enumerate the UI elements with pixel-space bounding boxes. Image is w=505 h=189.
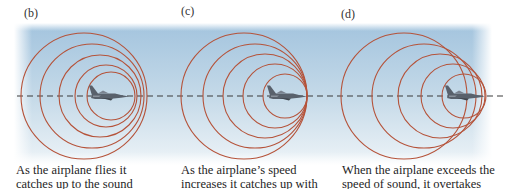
panel-c-label: (c) xyxy=(181,5,194,17)
panel-b-caption-line-2: catches up to the sound xyxy=(16,177,133,189)
panel-d-caption-line-2: speed of sound, it overtakes xyxy=(342,177,481,189)
panel-d-caption-line-1: When the airplane exceeds the xyxy=(342,163,495,177)
panel-d-label: (d) xyxy=(341,8,355,20)
panel-c-caption-line-2: increases it catches up with xyxy=(181,177,318,189)
sound-wave-diagram xyxy=(0,0,505,189)
panel-b-label: (b) xyxy=(24,7,38,19)
panel-b-caption-line-1: As the airplane flies it xyxy=(16,163,126,177)
panel-c-caption-line-1: As the airplane’s speed xyxy=(181,163,297,177)
